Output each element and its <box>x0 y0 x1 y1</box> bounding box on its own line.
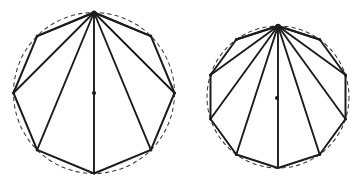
left-vertex-dot-lower-right <box>149 148 152 151</box>
right-apex-vertex-dot <box>275 24 281 30</box>
left-vertex-dot-left <box>12 91 15 94</box>
right-figure-group <box>207 24 349 168</box>
left-vertex-dot-right <box>173 91 176 94</box>
right-vertex-dot-upper-left <box>235 38 238 41</box>
right-center-point-dot <box>275 96 279 100</box>
left-center-point-dot <box>92 91 96 95</box>
right-vertex-dot-bottom-right <box>318 153 321 156</box>
left-apex-vertex-dot <box>91 10 96 15</box>
right-vertex-dot-left-upper <box>209 73 212 76</box>
left-figure-group <box>12 10 176 173</box>
right-vertex-dot-right-lower <box>344 118 347 121</box>
left-vertex-dot-upper-left <box>36 35 39 38</box>
right-vertex-dot-upper-right <box>318 38 321 41</box>
figure-canvas <box>0 0 353 189</box>
left-vertex-dot-upper-right <box>149 35 152 38</box>
right-vertex-dot-lower-left <box>235 153 238 156</box>
geometry-figure <box>0 0 353 189</box>
left-vertex-dot-lower-left <box>36 148 39 151</box>
right-vertex-dot-right-upper <box>344 73 347 76</box>
right-vertex-dot-left-lower <box>209 118 212 121</box>
